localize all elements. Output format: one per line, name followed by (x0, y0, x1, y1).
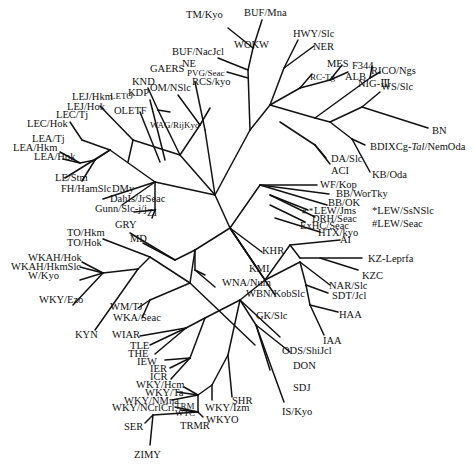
leaf-label: WIAR (112, 329, 140, 340)
leaf-label: ACI (331, 165, 350, 176)
leaf-label: KMI (249, 263, 270, 274)
leaf-label: WKYO (206, 414, 239, 425)
leaf-label: SER (124, 421, 143, 432)
bdix-tal: Tal (411, 141, 424, 152)
leaf-label: TM/Kyo (186, 9, 223, 20)
leaf-label: WKY/NCrlCrl (112, 402, 174, 413)
leaf-label: ODS/ShiJcl (282, 345, 332, 356)
bdix-prefix: BDIXCg- (370, 141, 412, 152)
leaf-label: HTX/kyo (318, 227, 358, 238)
leaf-label: WOKW (234, 39, 269, 50)
leaf-label: TO/Hok (67, 237, 103, 248)
leaf-label: ZIMY (134, 449, 161, 460)
leaf-label: LEA/Hok (34, 151, 76, 162)
leaf-label: IS/Kyo (282, 406, 312, 417)
leaf-label: W/Kyo (28, 270, 59, 281)
leaf-label: NER (313, 41, 334, 52)
leaf-label: ZI (147, 207, 157, 218)
leaf-label: KHR (262, 245, 284, 256)
leaf-label: WBN/KobSlc (246, 288, 305, 299)
leaf-label: WM/TJ (110, 301, 143, 312)
leaf-label: WKA/Seac (113, 312, 161, 323)
leaf-label: OLETF (114, 105, 147, 116)
leaf-label: BN (432, 125, 447, 136)
leaf-label: LE/Stm (55, 172, 88, 183)
leaf-label: WNA/Num (222, 277, 271, 288)
leaf-label: SDJ (293, 382, 311, 393)
legend-hash: #LEW/Seac (372, 218, 423, 229)
leaf-label: HAA (339, 309, 362, 320)
leaf-label: RCS/kyo (192, 76, 231, 87)
leaf-label: AI (340, 234, 352, 245)
leaf-label: MES (327, 58, 349, 69)
leaf-label: WAG/RijKyo (150, 120, 200, 130)
leaf-label: Gunn/Slc-j/j (95, 203, 147, 214)
leaf-label: FH/HamSlc (61, 183, 112, 194)
leaf-label: TRMR (180, 420, 210, 431)
leaf-label: GRY (115, 219, 137, 230)
leaf-label: LEC/Hok (27, 118, 69, 129)
leaf-label: WTC (175, 408, 195, 418)
leaf-label: BUF/NacJcl (172, 46, 224, 57)
leaf-label: WKY/Izm (205, 402, 249, 413)
leaf-label: MD (130, 233, 147, 244)
leaf-label: WS/Slc (381, 81, 413, 92)
leaf-label: BDIXCg-Tal/NemOda (370, 141, 466, 152)
leaf-label: SDT/Jcl (332, 290, 367, 301)
leaf-label: BUF/Mna (244, 7, 287, 18)
leaf-label: GAERS (150, 63, 185, 74)
legend-star: *LEW/SsNSlc (372, 205, 434, 216)
leaf-label: DON (293, 360, 316, 371)
phylogenetic-tree: TM/Kyo BUF/Mna HWY/Slc WOKW NER BUF/NacJ… (0, 0, 474, 473)
leaf-label: OM/NSlc (150, 82, 191, 93)
leaf-label: KYN (75, 329, 98, 340)
leaf-label: LETO (110, 91, 133, 101)
leaf-label: GK/Slc (256, 310, 288, 321)
leaf-label: KZ-Leprfa (368, 253, 414, 264)
leaf-label: DA/Slc (331, 153, 363, 164)
leaf-label: RICO/Ngs (371, 65, 416, 76)
leaf-label: WKY/Ezo (39, 294, 83, 305)
leaf-label: KB/Oda (372, 169, 407, 180)
leaf-label: RC-Tg (310, 72, 336, 82)
bdix-suffix: /NemOda (424, 141, 465, 152)
leaf-label: HWY/Slc (293, 28, 335, 39)
